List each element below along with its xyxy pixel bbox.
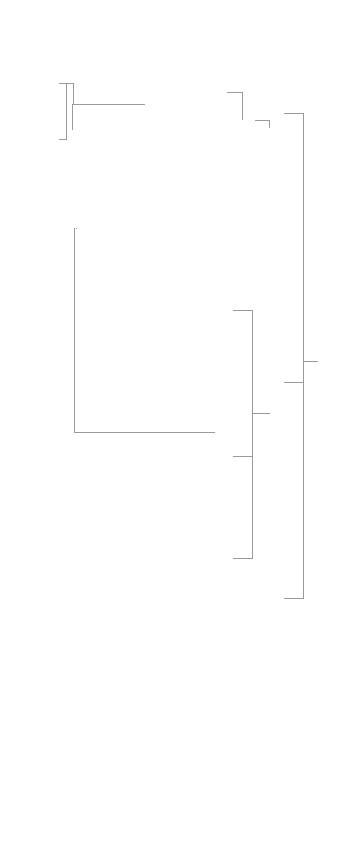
graham-kids-line (74, 229, 75, 432)
graham-tick (233, 310, 253, 311)
gen1-sibling-bar (303, 113, 304, 598)
nigel-tick (233, 456, 253, 457)
royce-tick (284, 382, 304, 383)
rana-kids-connector (73, 83, 74, 105)
joshua-tick (59, 139, 67, 140)
benjamin-tick (59, 83, 67, 84)
graham-drop (74, 432, 215, 433)
rana-drop (73, 104, 145, 105)
bill-link-v (255, 120, 270, 121)
rana-kids-drop (67, 83, 74, 84)
joan-tick (284, 113, 304, 114)
family-tree (0, 0, 353, 860)
royce-kids-bar (252, 310, 253, 558)
bill-link (269, 120, 270, 128)
jonathan-link (242, 92, 243, 120)
phillipa-tick (233, 558, 253, 559)
rana-kids-bar (66, 83, 67, 139)
rana-link (72, 104, 73, 130)
royce-drop (253, 413, 270, 414)
root-drop-line (304, 361, 318, 362)
jonathan-tick (227, 92, 243, 93)
graham-kids-bar-stub (76, 228, 77, 229)
ann-tick (284, 598, 304, 599)
